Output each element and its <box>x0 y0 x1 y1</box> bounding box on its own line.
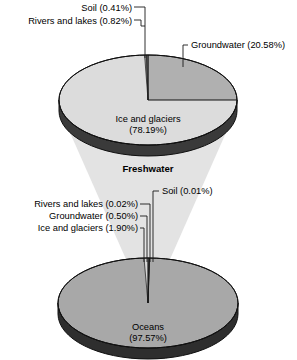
leader-line-soil-top <box>134 7 145 58</box>
freshwater-caption: Freshwater <box>122 163 173 174</box>
callout-groundwater-top: Groundwater (20.58%) <box>191 40 285 50</box>
callout-soil-top: Soil (0.41%) <box>81 3 132 13</box>
callout-ice-bottom: Ice and glaciers (1.90%) <box>38 223 138 233</box>
freshwater-pie: Ice and glaciers (78.19%) <box>59 55 237 156</box>
leader-line-rivers-top <box>134 20 145 26</box>
slice-groundwater[interactable] <box>148 55 237 100</box>
pie-chart-svg: Ice and glaciers (78.19%) Soil (0.41%) R… <box>0 0 297 360</box>
oceans-inner-label-line1: Oceans <box>132 322 164 332</box>
callout-groundwater-bottom: Groundwater (0.50%) <box>49 211 138 221</box>
callout-rivers-top: Rivers and lakes (0.82%) <box>28 16 132 26</box>
freshwater-inner-label-line1: Ice and glaciers <box>115 114 180 124</box>
water-distribution-figure: Ice and glaciers (78.19%) Soil (0.41%) R… <box>0 0 297 360</box>
callout-soil-bottom: Soil (0.01%) <box>162 186 213 196</box>
callout-rivers-bottom: Rivers and lakes (0.02%) <box>34 199 138 209</box>
freshwater-inner-label-line2: (78.19%) <box>129 125 167 135</box>
global-water-pie: Oceans (97.57%) <box>58 258 238 359</box>
oceans-inner-label-line2: (97.57%) <box>129 333 167 343</box>
